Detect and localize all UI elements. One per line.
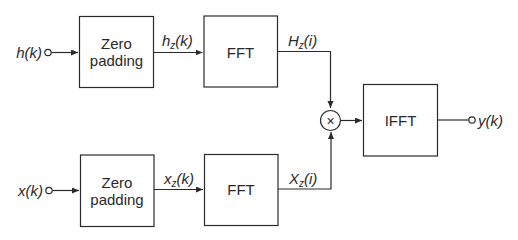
input-terminal-h [45,49,51,55]
ifft-label: IFFT [385,112,417,129]
zero-padding-top-line2: padding [90,52,143,69]
output-label-y: y(k) [477,112,503,129]
signal-label-xz: xz(k) [163,170,194,189]
signal-label-hz: hz(k) [162,32,193,51]
zero-padding-top-line1: Zero [101,35,132,52]
multiply-symbol: × [326,113,334,129]
zero-padding-bottom-line1: Zero [102,174,133,191]
signal-label-Xz: Xz(i) [288,170,317,189]
edge-fft-top-to-multiplier [278,52,331,109]
signal-label-Hz: Hz(i) [288,32,317,51]
zero-padding-bottom-line2: padding [90,191,143,208]
input-terminal-x [46,187,52,193]
fft-convolution-diagram: × Zero padding FFT Zero padding FFT IFFT… [0,0,518,240]
fft-top-label: FFT [227,44,255,61]
output-terminal-y [469,117,475,123]
input-label-x: x(k) [17,182,43,199]
input-label-h: h(k) [16,44,42,61]
fft-bottom-label: FFT [227,181,255,198]
